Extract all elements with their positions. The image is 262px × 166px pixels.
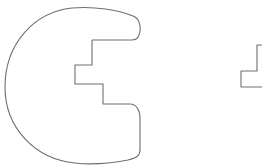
diagram-canvas: C-shaped piece with stepped notch Partia… <box>0 0 262 166</box>
stepped-piece-partial <box>241 45 262 87</box>
c-shaped-piece <box>5 7 140 163</box>
diagram-svg <box>0 0 262 166</box>
